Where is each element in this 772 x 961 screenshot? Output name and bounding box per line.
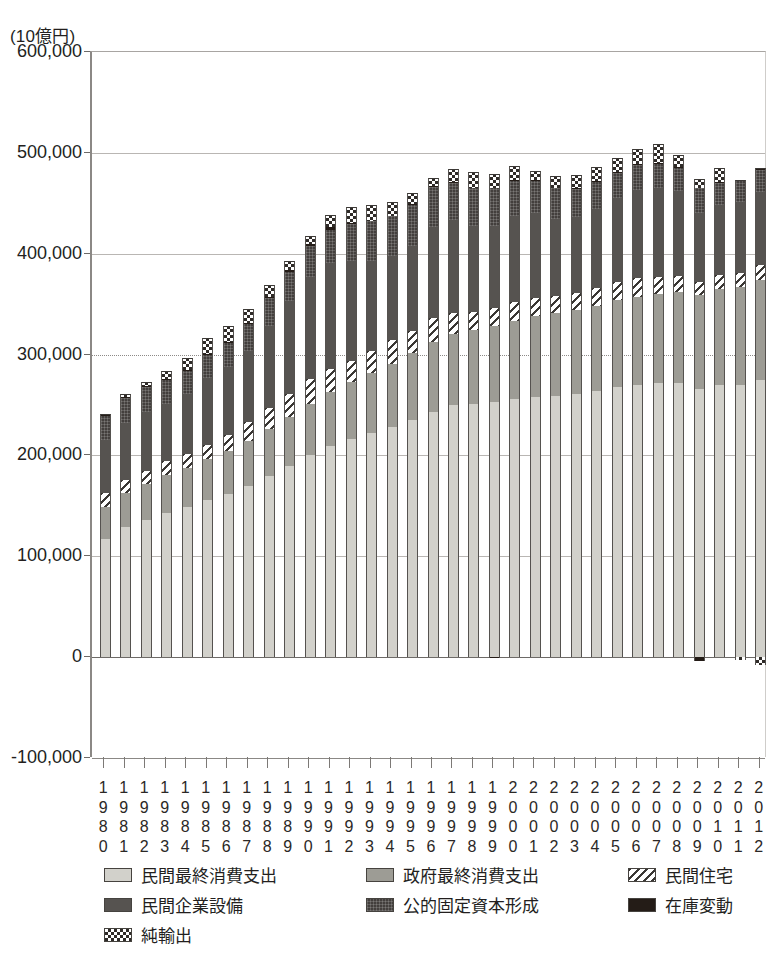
legend-item-net_exports: 純輸出 xyxy=(104,922,192,947)
x-label-digit: 6 xyxy=(215,837,237,857)
x-tick-mark xyxy=(349,757,350,768)
x-label-digit: 1 xyxy=(707,817,729,837)
x-label-digit: 9 xyxy=(338,817,360,837)
x-label-digit: 2 xyxy=(707,778,729,798)
legend-item-public_fixed_capital: 公的固定資本形成 xyxy=(366,892,539,917)
legend-label-government_consumption: 政府最終消費支出 xyxy=(403,862,539,887)
legend-swatch-net_exports xyxy=(104,928,132,942)
x-label-digit: 8 xyxy=(666,837,688,857)
x-label-digit: 1 xyxy=(359,778,381,798)
x-label-digit: 2 xyxy=(645,778,667,798)
legend-item-private_consumption: 民間最終消費支出 xyxy=(104,862,277,887)
x-label-digit: 2 xyxy=(543,837,565,857)
x-label-digit: 1 xyxy=(174,778,196,798)
x-tick-mark xyxy=(451,757,452,768)
x-label-digit: 1 xyxy=(379,778,401,798)
x-label-digit: 0 xyxy=(604,798,626,818)
x-label-digit: 9 xyxy=(277,798,299,818)
x-label-digit: 2 xyxy=(686,778,708,798)
legend-item-private_housing: 民間住宅 xyxy=(628,862,733,887)
x-tick-label: 2001 xyxy=(522,778,544,856)
legend-label-private_housing: 民間住宅 xyxy=(665,862,733,887)
x-label-digit: 9 xyxy=(440,817,462,837)
x-label-digit: 2 xyxy=(666,778,688,798)
x-label-digit: 1 xyxy=(113,778,135,798)
x-label-digit: 2 xyxy=(584,778,606,798)
x-tick-label: 1983 xyxy=(154,778,176,856)
x-tick-mark xyxy=(595,757,596,768)
x-label-digit: 2 xyxy=(543,778,565,798)
x-label-digit: 9 xyxy=(379,817,401,837)
x-label-digit: 8 xyxy=(92,817,114,837)
x-tick-label: 2010 xyxy=(707,778,729,856)
x-tick-label: 1981 xyxy=(113,778,135,856)
x-label-digit: 0 xyxy=(686,817,708,837)
x-tick-mark xyxy=(206,757,207,768)
x-label-digit: 0 xyxy=(686,798,708,818)
x-label-digit: 0 xyxy=(645,817,667,837)
x-tick-label: 1980 xyxy=(92,778,114,856)
x-label-digit: 9 xyxy=(379,798,401,818)
x-tick-label: 1990 xyxy=(297,778,319,856)
x-tick-mark xyxy=(165,757,166,768)
x-axis: 1980198119821983198419851986198719881989… xyxy=(0,0,772,961)
x-tick-mark xyxy=(124,757,125,768)
legend-label-net_exports: 純輸出 xyxy=(141,922,192,947)
x-label-digit: 0 xyxy=(563,817,585,837)
x-tick-label: 1992 xyxy=(338,778,360,856)
x-label-digit: 8 xyxy=(256,817,278,837)
x-label-digit: 0 xyxy=(563,798,585,818)
x-label-digit: 9 xyxy=(461,798,483,818)
x-label-digit: 9 xyxy=(400,817,422,837)
x-label-digit: 9 xyxy=(215,798,237,818)
x-label-digit: 2 xyxy=(748,837,770,857)
x-label-digit: 2 xyxy=(727,778,749,798)
x-label-digit: 1 xyxy=(256,778,278,798)
x-tick-label: 2007 xyxy=(645,778,667,856)
x-label-digit: 9 xyxy=(338,798,360,818)
x-tick-label: 1989 xyxy=(277,778,299,856)
x-label-digit: 2 xyxy=(133,837,155,857)
x-label-digit: 9 xyxy=(400,798,422,818)
x-label-digit: 1 xyxy=(522,837,544,857)
x-tick-mark xyxy=(103,757,104,768)
x-tick-mark xyxy=(554,757,555,768)
legend-label-public_fixed_capital: 公的固定資本形成 xyxy=(403,892,539,917)
x-label-digit: 9 xyxy=(174,798,196,818)
x-label-digit: 4 xyxy=(379,837,401,857)
x-tick-mark xyxy=(431,757,432,768)
x-tick-mark xyxy=(513,757,514,768)
legend-row: 民間企業設備公的固定資本形成在庫変動 xyxy=(104,892,764,922)
x-tick-mark xyxy=(226,757,227,768)
x-tick-mark xyxy=(411,757,412,768)
x-tick-label: 2002 xyxy=(543,778,565,856)
x-label-digit: 0 xyxy=(543,798,565,818)
x-tick-label: 1993 xyxy=(359,778,381,856)
x-label-digit: 2 xyxy=(338,837,360,857)
x-label-digit: 2 xyxy=(625,778,647,798)
x-label-digit: 2 xyxy=(604,778,626,798)
x-tick-label: 2011 xyxy=(727,778,749,856)
x-tick-label: 1982 xyxy=(133,778,155,856)
x-tick-mark xyxy=(247,757,248,768)
x-label-digit: 1 xyxy=(748,817,770,837)
x-label-digit: 1 xyxy=(215,778,237,798)
x-tick-label: 1999 xyxy=(481,778,503,856)
x-tick-mark xyxy=(656,757,657,768)
x-tick-mark xyxy=(636,757,637,768)
legend-item-government_consumption: 政府最終消費支出 xyxy=(366,862,539,887)
x-label-digit: 0 xyxy=(748,798,770,818)
x-tick-mark xyxy=(677,757,678,768)
x-tick-mark xyxy=(288,757,289,768)
x-tick-mark xyxy=(267,757,268,768)
x-label-digit: 1 xyxy=(461,778,483,798)
x-label-digit: 2 xyxy=(522,778,544,798)
x-label-digit: 9 xyxy=(92,798,114,818)
x-tick-label: 1988 xyxy=(256,778,278,856)
x-label-digit: 0 xyxy=(727,798,749,818)
x-label-digit: 0 xyxy=(707,837,729,857)
legend-swatch-inventory_change xyxy=(628,898,656,912)
x-label-digit: 1 xyxy=(92,778,114,798)
x-tick-label: 2005 xyxy=(604,778,626,856)
x-label-digit: 2 xyxy=(748,778,770,798)
